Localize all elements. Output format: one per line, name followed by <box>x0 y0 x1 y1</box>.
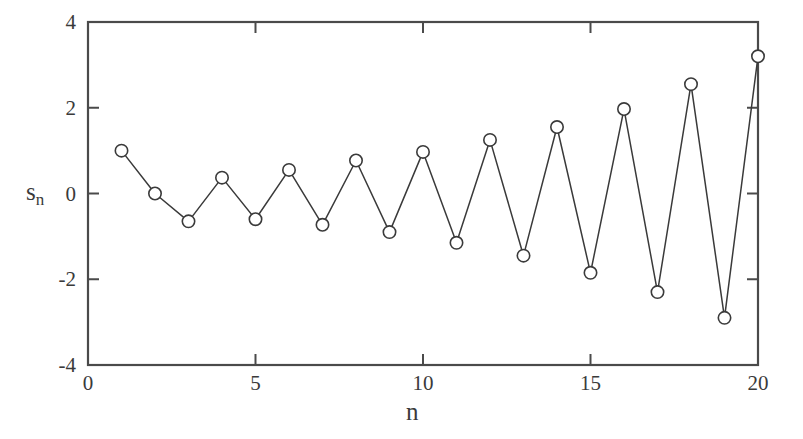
data-point-marker <box>484 134 496 146</box>
data-point-marker <box>618 103 630 115</box>
data-point-marker <box>383 226 395 238</box>
data-point-marker <box>685 78 697 90</box>
chart-figure: sn n -4-2024 05101520 <box>0 0 803 439</box>
data-point-marker <box>584 267 596 279</box>
data-point-marker <box>752 50 764 62</box>
x-tick-label: 20 <box>748 371 769 396</box>
plot-frame-rect <box>88 22 758 365</box>
data-point-marker <box>216 171 228 183</box>
plot-frame <box>88 22 758 365</box>
data-point-marker <box>115 144 127 156</box>
data-line-series <box>122 56 759 318</box>
y-tick-label: 0 <box>66 181 77 206</box>
x-tick-label: 10 <box>413 371 434 396</box>
data-point-markers <box>115 50 764 324</box>
data-point-marker <box>316 219 328 231</box>
y-axis-title-base: s <box>26 178 36 205</box>
data-polyline <box>122 56 759 318</box>
y-tick-label: -4 <box>59 353 77 378</box>
data-point-marker <box>551 121 563 133</box>
y-axis-title: sn <box>26 178 44 210</box>
x-tick-label: 5 <box>250 371 261 396</box>
data-point-marker <box>149 187 161 199</box>
data-point-marker <box>182 215 194 227</box>
data-point-marker <box>718 312 730 324</box>
y-tick-label: 4 <box>66 10 77 35</box>
data-point-marker <box>450 237 462 249</box>
data-point-marker <box>249 213 261 225</box>
data-point-marker <box>517 249 529 261</box>
x-tick-label: 15 <box>580 371 601 396</box>
data-point-marker <box>417 146 429 158</box>
data-point-marker <box>350 154 362 166</box>
x-axis-title: n <box>406 398 419 426</box>
y-tick-label: -2 <box>59 267 77 292</box>
data-point-marker <box>651 286 663 298</box>
axis-ticks <box>88 22 758 365</box>
y-axis-title-subscript: n <box>36 190 45 209</box>
y-tick-label: 2 <box>66 95 77 120</box>
x-tick-label: 0 <box>83 371 94 396</box>
data-point-marker <box>283 164 295 176</box>
chart-plot-area <box>0 0 803 439</box>
